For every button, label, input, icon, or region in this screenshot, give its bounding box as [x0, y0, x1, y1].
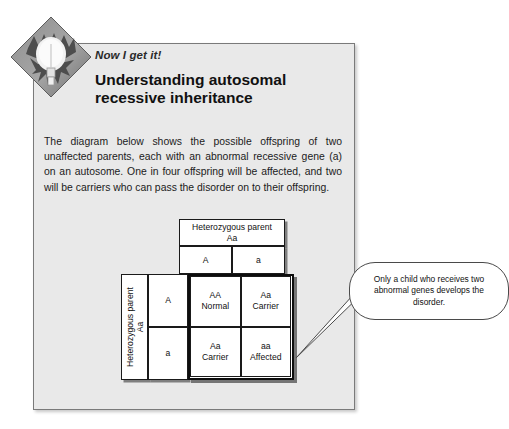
left-parent-line2: Aa: [135, 322, 145, 333]
body-paragraph: The diagram below shows the possible off…: [44, 134, 342, 195]
cell-genotype: aa: [261, 341, 271, 352]
top-parent-line1: Heterozygous parent: [192, 222, 272, 232]
punnett-cell: Aa Carrier: [241, 276, 292, 327]
cell-genotype: Aa: [210, 341, 221, 352]
left-allele-0: A: [148, 274, 188, 327]
top-parent-line2: Aa: [227, 233, 238, 243]
kicker-label: Now I get it!: [95, 49, 161, 61]
cell-phenotype: Affected: [250, 352, 281, 363]
callout-bubble: Only a child who receives two abnormal g…: [349, 262, 509, 320]
cell-phenotype: Carrier: [202, 352, 228, 363]
punnett-result-grid: AA Normal Aa Carrier Aa Carrier aa Affec…: [188, 274, 294, 380]
cell-genotype: AA: [210, 290, 221, 301]
cell-phenotype: Carrier: [253, 301, 279, 312]
top-parent-header: Heterozygous parent Aa: [179, 219, 285, 246]
punnett-cell: Aa Carrier: [190, 327, 241, 378]
punnett-cell: aa Affected: [241, 327, 292, 378]
top-allele-0: A: [179, 246, 232, 274]
left-parent-line1: Heterozygous parent: [125, 287, 135, 367]
lightbulb-diamond-icon: [8, 14, 94, 100]
page-title: Understanding autosomal recessive inheri…: [95, 71, 345, 107]
left-allele-1: a: [148, 327, 188, 380]
left-parent-header: Heterozygous parent Aa: [121, 274, 148, 380]
callout-text: Only a child who receives two abnormal g…: [364, 274, 494, 309]
top-allele-1: a: [232, 246, 285, 274]
cell-phenotype: Normal: [201, 301, 229, 312]
cell-genotype: Aa: [260, 290, 271, 301]
punnett-cell: AA Normal: [190, 276, 241, 327]
